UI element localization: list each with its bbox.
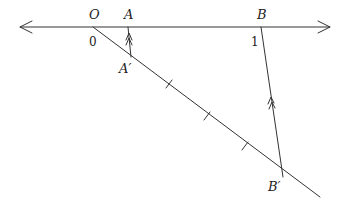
label-A-prime: A′ [119,62,131,75]
label-O: O [89,8,100,21]
ray-tick-mark [204,112,210,120]
ray-tick-mark [242,142,248,150]
label-one: 1 [251,36,259,48]
label-A: A [124,8,133,21]
double-arrow-icon [268,97,274,104]
auxiliary-ray [93,27,320,197]
label-B: B [257,8,267,21]
label-zero: 0 [89,36,97,48]
construction-diagram [0,0,345,207]
label-B-prime: B′ [268,180,281,193]
ray-tick-mark [166,80,172,88]
